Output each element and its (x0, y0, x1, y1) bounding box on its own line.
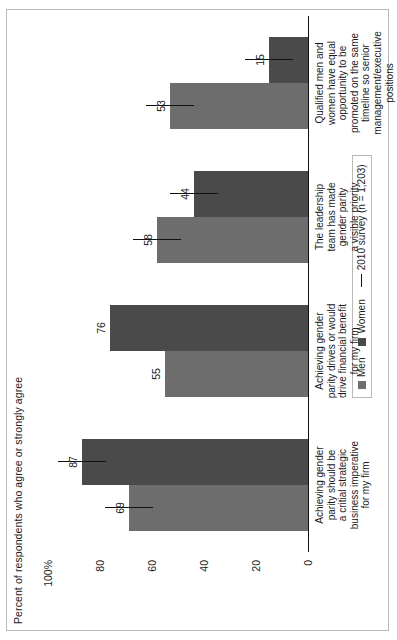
bar-women (81, 439, 307, 485)
tick-label-80: 80 (94, 560, 106, 572)
plot-area: 6987557658445315 (48, 16, 308, 552)
rotated-chart-canvas: Percent of respondents who agree or stro… (8, 10, 388, 630)
bar-men (165, 351, 308, 397)
tick-label-40: 40 (198, 560, 210, 572)
bar-group: 5315 (48, 16, 308, 150)
bar-men (170, 83, 308, 129)
bar-value-label: 58 (142, 234, 154, 246)
tick-label-100pct: 100% (42, 560, 54, 587)
bar-men (128, 485, 307, 531)
bar-men (157, 217, 308, 263)
legend-line-icon (361, 274, 362, 287)
bar-value-label: 53 (155, 100, 167, 112)
bar-value-label: 44 (178, 188, 190, 200)
value-axis-ticks: 100%806040200 (8, 560, 348, 630)
reference-line-2010 (133, 239, 181, 240)
reference-line-2010 (146, 105, 194, 106)
reference-line-2010 (245, 59, 293, 60)
bar-value-label: 87 (66, 456, 78, 468)
bar-value-label: 69 (113, 502, 125, 514)
bar-value-label: 55 (150, 368, 162, 380)
bar-value-label: 15 (254, 54, 266, 66)
category-label: The leadershipteam has madegender parity… (314, 150, 360, 284)
bar-group: 5576 (48, 284, 308, 418)
bar-women (110, 305, 308, 351)
reference-line-2010 (104, 507, 152, 508)
reference-line-2010 (57, 461, 105, 462)
bar-group: 6987 (48, 418, 308, 552)
tick-label-0: 0 (302, 560, 314, 566)
category-label: Achieving genderparity should bea critia… (314, 418, 372, 552)
bar-value-label: 76 (95, 322, 107, 334)
bar-women (193, 171, 307, 217)
tick-label-60: 60 (146, 560, 158, 572)
bar-women (269, 37, 308, 83)
tick-label-20: 20 (250, 560, 262, 572)
category-label: Achieving genderparity drives or woulddr… (314, 284, 360, 418)
category-label: Qualified men andwomen have equalopportu… (314, 16, 395, 150)
chart-page: Percent of respondents who agree or stro… (0, 0, 397, 640)
figure-frame: Percent of respondents who agree or stro… (6, 9, 389, 631)
bar-group: 5844 (48, 150, 308, 284)
reference-line-2010 (169, 193, 217, 194)
chart-area: Percent of respondents who agree or stro… (8, 10, 388, 630)
